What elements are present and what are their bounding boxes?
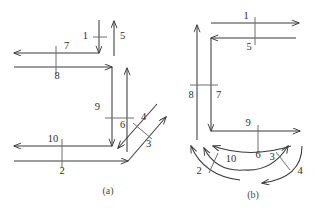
label-a-1: 1: [83, 30, 88, 41]
tick-b-3-4: [276, 152, 290, 170]
label-b-4: 4: [297, 165, 303, 176]
caption-a: (a): [102, 185, 113, 197]
caption-b: (b): [247, 189, 259, 201]
label-b-5: 5: [246, 41, 251, 52]
label-a-9: 9: [95, 101, 100, 112]
label-a-6: 6: [120, 119, 125, 130]
label-a-10: 10: [48, 133, 59, 144]
label-b-9: 9: [245, 117, 250, 128]
figure-svg: 1 5 7 8 9 6 4 3 10 2 (a): [0, 0, 330, 210]
label-a-2: 2: [59, 165, 64, 176]
arrow-b-6: [213, 146, 291, 153]
tick-a-4-3: [133, 123, 152, 139]
label-b-6: 6: [255, 149, 260, 160]
label-a-3: 3: [146, 138, 151, 149]
label-b-7: 7: [216, 89, 221, 100]
label-b-2: 2: [196, 165, 201, 176]
label-b-1: 1: [243, 10, 248, 21]
label-a-5: 5: [120, 30, 125, 41]
panel-b: 1 5 8 7 9 6 10 2 3 4 (b): [188, 10, 303, 201]
label-b-3: 3: [269, 151, 274, 162]
panel-a: 1 5 7 8 9 6 4 3 10 2 (a): [14, 20, 166, 197]
label-a-4: 4: [141, 111, 147, 122]
label-b-10: 10: [226, 153, 237, 164]
arrow-b-3: [244, 146, 288, 170]
label-a-7: 7: [64, 40, 69, 51]
label-b-8: 8: [188, 89, 193, 100]
label-a-8: 8: [54, 70, 59, 81]
figure-container: 1 5 7 8 9 6 4 3 10 2 (a): [0, 0, 330, 210]
